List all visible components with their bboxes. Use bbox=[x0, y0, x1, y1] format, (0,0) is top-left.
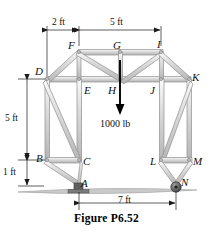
node-label-E: E bbox=[84, 85, 91, 96]
joint-B bbox=[45, 158, 48, 161]
dim-label-5ft-left: 5 ft bbox=[5, 114, 18, 124]
member-E-C bbox=[77, 79, 82, 161]
node-label-B: B bbox=[36, 153, 43, 164]
node-label-C: C bbox=[83, 156, 90, 167]
node-label-M: M bbox=[193, 156, 202, 167]
node-label-J: J bbox=[150, 85, 155, 96]
member-J-L bbox=[160, 79, 165, 161]
joint-J bbox=[159, 77, 162, 80]
figure-p652: F G I D K E H J B C L M A N 2 ft 5 ft 5 … bbox=[0, 0, 213, 233]
node-label-H: H bbox=[108, 85, 116, 96]
roller-support-N bbox=[171, 182, 181, 192]
member-B-A bbox=[44, 160, 81, 186]
node-label-K: K bbox=[192, 72, 199, 83]
node-label-A: A bbox=[81, 178, 88, 189]
member-B-C bbox=[46, 158, 81, 164]
dim-label-1ft: 1 ft bbox=[3, 168, 16, 178]
joint-F bbox=[77, 50, 80, 53]
member-L-N bbox=[159, 160, 178, 186]
node-label-G: G bbox=[113, 40, 121, 51]
joint-I bbox=[159, 50, 162, 53]
joint-M bbox=[187, 158, 190, 161]
node-label-F: F bbox=[68, 40, 75, 51]
dim-label-2ft: 2 ft bbox=[52, 18, 65, 28]
dim-label-7ft: 7 ft bbox=[118, 196, 131, 206]
node-label-I: I bbox=[157, 39, 161, 50]
joint-L bbox=[159, 158, 162, 161]
dim-label-5ft-top: 5 ft bbox=[110, 18, 123, 28]
member-G-I bbox=[119, 50, 163, 56]
node-label-N: N bbox=[181, 177, 188, 188]
load-arrow-1000lb bbox=[116, 60, 125, 115]
node-label-L: L bbox=[150, 156, 156, 167]
node-label-D: D bbox=[35, 66, 43, 77]
joint-E bbox=[77, 77, 80, 80]
ground-surface bbox=[18, 188, 197, 193]
truss-diagram bbox=[0, 0, 213, 233]
figure-caption: Figure P6.52 bbox=[0, 212, 213, 224]
joint-D bbox=[45, 77, 48, 80]
joint-K bbox=[187, 77, 190, 80]
load-label: 1000 lb bbox=[100, 119, 130, 129]
joint-C bbox=[77, 158, 80, 161]
